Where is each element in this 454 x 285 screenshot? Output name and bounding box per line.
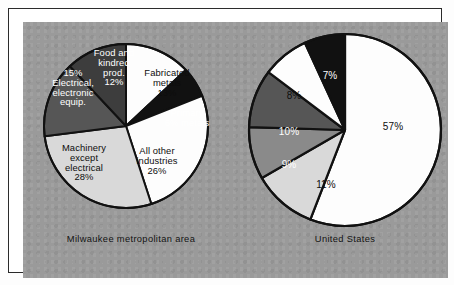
pie-chart-milwaukee <box>28 28 224 224</box>
chart-panel: Fabricated metals 13% Primary 6% metals … <box>23 22 448 278</box>
pie-chart-united-states <box>245 30 445 230</box>
caption-milwaukee: Milwaukee metropolitan area <box>41 234 221 244</box>
caption-united-states: United States <box>275 234 415 244</box>
figure-frame: Fabricated metals 13% Primary 6% metals … <box>8 8 442 273</box>
pie-milwaukee-svg <box>28 28 224 224</box>
figure-root: Fabricated metals 13% Primary 6% metals … <box>0 0 454 285</box>
pie-united-states-svg <box>245 30 445 230</box>
